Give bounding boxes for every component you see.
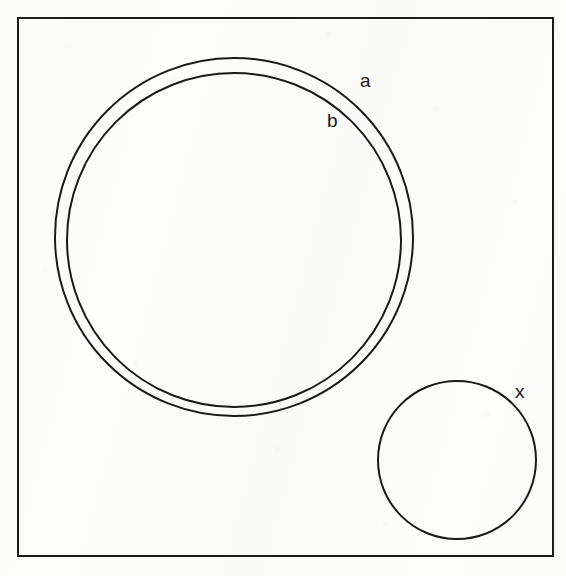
large-circle-inner-wall <box>67 73 401 407</box>
label-x: x <box>515 382 525 401</box>
border-rectangle <box>18 18 553 556</box>
label-a: a <box>360 71 371 90</box>
figure-drawing <box>0 0 566 576</box>
large-circle-outer-wall <box>55 58 413 416</box>
small-circle <box>378 381 536 539</box>
label-b: b <box>327 111 338 130</box>
figure-canvas: a b x <box>0 0 566 576</box>
